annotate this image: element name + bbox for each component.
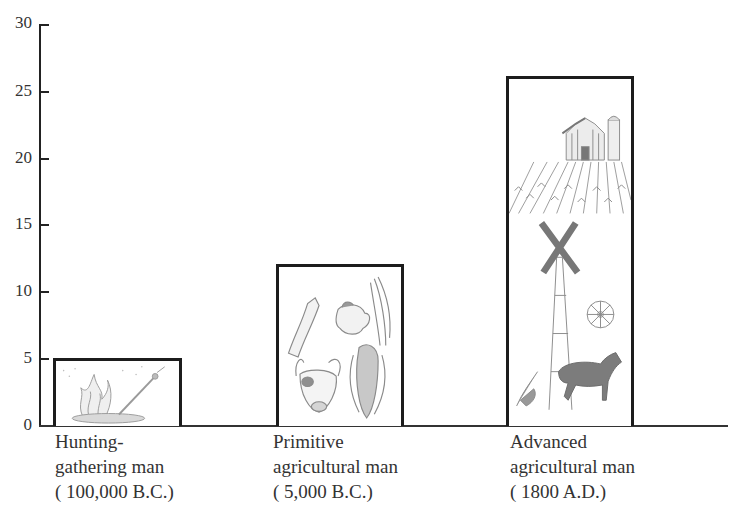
y-tick-25 — [39, 91, 49, 93]
category-label-line: gathering man — [55, 454, 174, 479]
farm-animals-crops-illustration — [279, 267, 401, 426]
category-label-primitive-agricultural: Primitive agricultural man ( 5,000 B.C.) — [273, 429, 398, 504]
category-label-advanced-agricultural: Advanced agricultural man ( 1800 A.D.) — [510, 429, 635, 504]
campfire-spear-illustration — [56, 361, 179, 426]
bar-advanced-agricultural — [506, 76, 634, 426]
y-tick-30 — [39, 24, 49, 26]
y-tick-15 — [39, 224, 49, 226]
y-tick-20 — [39, 158, 49, 160]
bar-hunting-gathering — [53, 358, 182, 426]
category-label-line: Hunting- — [55, 429, 174, 454]
category-label-line: Primitive — [273, 429, 398, 454]
y-tick-5 — [39, 358, 49, 360]
bar-chart: 30 25 20 15 10 5 0 — [0, 0, 737, 522]
category-label-line: agricultural man — [510, 454, 635, 479]
category-label-line: ( 5,000 B.C.) — [273, 479, 398, 504]
y-tick-label: 0 — [2, 416, 32, 434]
y-tick-10 — [39, 291, 49, 293]
farmstead-windmill-horse-illustration — [509, 79, 631, 426]
y-tick-label: 15 — [2, 215, 32, 233]
y-tick-label: 5 — [2, 349, 32, 367]
category-label-line: ( 1800 A.D.) — [510, 479, 635, 504]
bar-primitive-agricultural — [276, 264, 404, 426]
y-tick-label: 10 — [2, 282, 32, 300]
category-label-line: agricultural man — [273, 454, 398, 479]
category-label-line: Advanced — [510, 429, 635, 454]
category-label-line: ( 100,000 B.C.) — [55, 479, 174, 504]
y-tick-label: 20 — [2, 149, 32, 167]
y-tick-label: 25 — [2, 82, 32, 100]
category-label-hunting-gathering: Hunting- gathering man ( 100,000 B.C.) — [55, 429, 174, 504]
y-tick-label: 30 — [2, 14, 32, 32]
